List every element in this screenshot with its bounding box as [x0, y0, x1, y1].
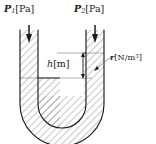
unit-p1: [Pa] — [15, 3, 34, 14]
unit-h: [m] — [53, 58, 69, 69]
label-pressure-left: P1[Pa] — [4, 4, 34, 15]
label-pressure-right: P2[Pa] — [74, 4, 104, 15]
manometer-drawing — [0, 0, 156, 144]
unit-p2: [Pa] — [85, 3, 104, 14]
unit-r: [N/m — [114, 52, 135, 62]
u-tube-manometer-figure: P1[Pa] P2[Pa] h[m] r[N/m3] — [0, 0, 156, 144]
label-height: h[m] — [47, 59, 70, 69]
unit-r-close: ] — [139, 52, 142, 62]
label-specific-weight: r[N/m3] — [110, 53, 142, 61]
